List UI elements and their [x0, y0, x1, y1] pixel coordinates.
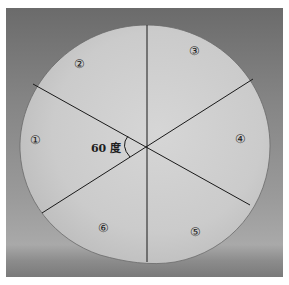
- sector-label-3: ③: [189, 45, 200, 57]
- sector-label-5: ⑤: [190, 226, 201, 238]
- sector-label-4: ④: [235, 133, 246, 145]
- sector-label-6: ⑥: [98, 222, 109, 234]
- sector-label-1: ①: [30, 134, 41, 146]
- angle-label: 60 度: [91, 143, 121, 154]
- sector-label-2: ②: [74, 58, 85, 70]
- paper-circle: [20, 25, 270, 264]
